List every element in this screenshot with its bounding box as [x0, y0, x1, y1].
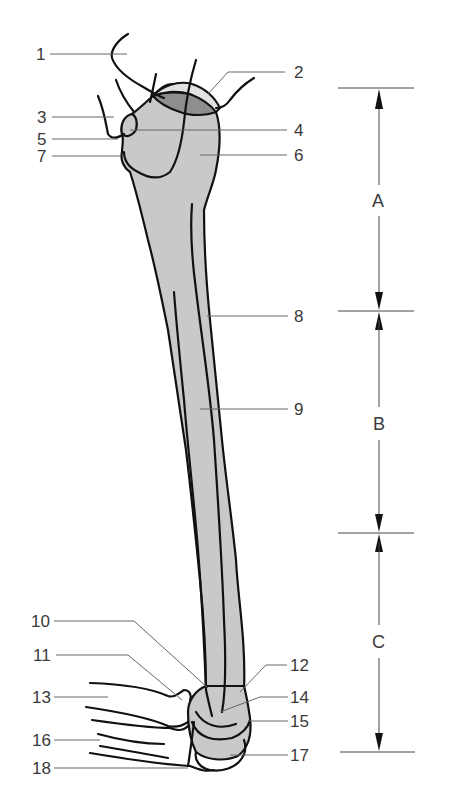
- distal-humerus: [188, 686, 251, 759]
- label-4: 4: [294, 121, 303, 140]
- label-12: 12: [290, 656, 309, 675]
- lesser-tubercle: [121, 114, 136, 136]
- dimension-markers: A B C: [338, 88, 415, 752]
- label-16: 16: [32, 731, 51, 750]
- clavicle-outline: [216, 78, 254, 108]
- label-17: 17: [290, 746, 309, 765]
- label-6: 6: [294, 146, 303, 165]
- dim-A-label: A: [372, 191, 384, 211]
- forearm-line-4: [98, 734, 164, 744]
- label-14: 14: [290, 688, 309, 707]
- label-8: 8: [294, 307, 303, 326]
- label-9: 9: [294, 400, 303, 419]
- label-13: 13: [32, 688, 51, 707]
- dimension-A: A: [372, 89, 384, 310]
- label-11: 11: [33, 646, 51, 665]
- humerus-diagram: 1 2 3 4 5 6 7 8 9 10 11 12 13 14 15 16 1…: [0, 0, 449, 806]
- dimension-C: C: [372, 534, 385, 751]
- arrow-down-icon: [375, 292, 383, 310]
- dimension-B: B: [373, 312, 385, 532]
- glenoid-outline-1: [116, 80, 134, 112]
- arrow-up-icon: [375, 89, 383, 109]
- arrow-down-icon: [375, 514, 383, 532]
- label-7: 7: [37, 147, 46, 166]
- label-3: 3: [37, 108, 46, 127]
- leader-12: [240, 665, 287, 692]
- label-10: 10: [31, 612, 50, 631]
- dim-C-label: C: [372, 632, 385, 652]
- radius-lower-outline: [86, 707, 188, 727]
- label-2: 2: [294, 63, 303, 82]
- label-18: 18: [32, 759, 51, 778]
- dim-B-label: B: [373, 414, 385, 434]
- label-15: 15: [290, 712, 309, 731]
- ulna-upper-outline: [92, 720, 188, 730]
- arrow-down-icon: [375, 733, 383, 751]
- label-1: 1: [36, 45, 45, 64]
